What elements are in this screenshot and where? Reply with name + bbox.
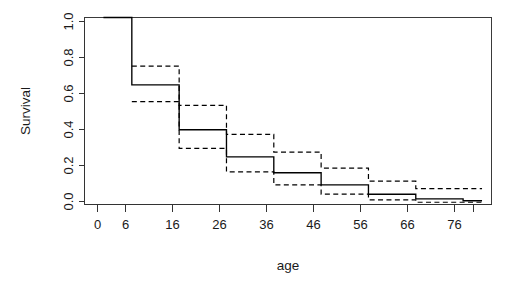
y-tick-label-04: 0.4: [61, 120, 76, 138]
x-tick-label-36: 36: [259, 217, 273, 232]
x-tick-label-66: 66: [400, 217, 414, 232]
y-tick-label-1: 1.0: [61, 12, 76, 30]
y-tick-label-02: 0.2: [61, 156, 76, 174]
x-tick-label-16: 16: [165, 217, 179, 232]
upper-confidence-curve: [132, 66, 482, 188]
y-axis-tick-labels: 1.0 0.8 0.6 0.4 0.2 0.0: [61, 12, 76, 210]
x-axis-title: age: [277, 258, 300, 273]
y-axis-title: Survival: [18, 87, 33, 135]
y-tick-label-08: 0.8: [61, 48, 76, 66]
x-tick-label-56: 56: [353, 217, 367, 232]
x-axis-ticks: [98, 205, 474, 212]
x-axis-tick-labels: 0 6 16 26 36 46 56 66 76: [94, 217, 462, 232]
x-tick-label-46: 46: [306, 217, 320, 232]
x-tick-label-76: 76: [447, 217, 461, 232]
y-tick-label-06: 0.6: [61, 84, 76, 102]
y-axis-ticks: [79, 22, 85, 202]
plot-canvas: 1.0 0.8 0.6 0.4 0.2 0.0 Survival 0 6 16 …: [0, 0, 506, 290]
plot-frame: [85, 18, 492, 205]
y-tick-label-0: 0.0: [61, 192, 76, 210]
survival-curve-figure: 1.0 0.8 0.6 0.4 0.2 0.0 Survival 0 6 16 …: [0, 0, 506, 290]
x-tick-label-26: 26: [212, 217, 226, 232]
survival-estimate-curve: [103, 18, 482, 201]
x-tick-label-0: 0: [94, 217, 101, 232]
x-tick-label-6: 6: [122, 217, 129, 232]
